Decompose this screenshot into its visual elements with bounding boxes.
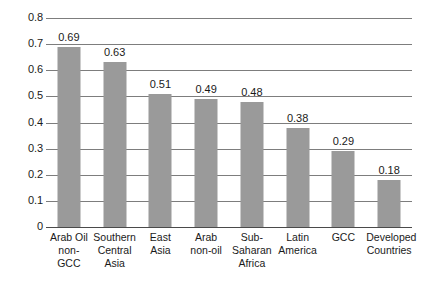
bar-value-label: 0.18 bbox=[378, 165, 399, 176]
bar bbox=[103, 62, 126, 227]
x-axis-category-label-line: East bbox=[138, 231, 184, 244]
bar-group: 0.69 bbox=[46, 18, 92, 227]
x-axis-category-label-line: Saharan bbox=[229, 244, 275, 257]
bar bbox=[378, 180, 401, 227]
bar bbox=[195, 99, 218, 227]
x-axis-category-label-line: Southern bbox=[92, 231, 138, 244]
bar-group: 0.48 bbox=[229, 18, 275, 227]
y-axis-tick-label: 0 bbox=[3, 221, 43, 232]
y-axis-tick-label: 0.7 bbox=[3, 38, 43, 49]
bar-value-label: 0.69 bbox=[58, 32, 79, 43]
bar bbox=[57, 47, 80, 227]
x-axis: Arab Oilnon-GCCSouthernCentralAsiaEastAs… bbox=[46, 231, 412, 287]
bar-group: 0.51 bbox=[138, 18, 184, 227]
y-axis-tick-label: 0.6 bbox=[3, 64, 43, 75]
bar-group: 0.18 bbox=[366, 18, 412, 227]
y-axis-tick-label: 0.3 bbox=[3, 143, 43, 154]
axis-baseline bbox=[46, 227, 412, 228]
bar bbox=[240, 102, 263, 227]
bar-value-label: 0.38 bbox=[287, 113, 308, 124]
x-axis-category-label: EastAsia bbox=[138, 231, 184, 257]
x-axis-category-label-line: Sub- bbox=[229, 231, 275, 244]
x-axis-category-label-line: Asia bbox=[138, 244, 184, 257]
x-axis-category-label-line: Arab bbox=[183, 231, 229, 244]
x-axis-category-label-line: non-oil bbox=[183, 244, 229, 257]
x-axis-category-label-line: Arab Oil bbox=[46, 231, 92, 244]
x-axis-category-label: DevelopedCountries bbox=[366, 231, 412, 257]
y-axis-tick-label: 0.5 bbox=[3, 90, 43, 101]
y-axis: 0.80.70.60.50.40.30.20.10 bbox=[0, 18, 43, 227]
x-axis-category-label-line: Developed bbox=[366, 231, 412, 244]
x-axis-category-label-line: America bbox=[275, 244, 321, 257]
bar-group: 0.29 bbox=[321, 18, 367, 227]
bar-group: 0.49 bbox=[183, 18, 229, 227]
y-axis-tick-label: 0.8 bbox=[3, 12, 43, 23]
x-axis-category-label: SouthernCentralAsia bbox=[92, 231, 138, 270]
bar-value-label: 0.29 bbox=[333, 136, 354, 147]
x-axis-category-label-line: Asia bbox=[92, 257, 138, 270]
x-axis-category-label-line: Africa bbox=[229, 257, 275, 270]
bar-chart: 0.80.70.60.50.40.30.20.10 0.690.630.510.… bbox=[0, 0, 426, 287]
x-axis-category-label: GCC bbox=[321, 231, 367, 244]
x-axis-category-label: Arab Oilnon-GCC bbox=[46, 231, 92, 270]
bar bbox=[149, 94, 172, 227]
bar-group: 0.38 bbox=[275, 18, 321, 227]
x-axis-category-label-line: Central bbox=[92, 244, 138, 257]
x-axis-category-label-line: GCC bbox=[46, 257, 92, 270]
bar bbox=[332, 151, 355, 227]
x-axis-category-label-line: Countries bbox=[366, 244, 412, 257]
plot-area: 0.690.630.510.490.480.380.290.18 bbox=[46, 18, 412, 227]
bar-group: 0.63 bbox=[92, 18, 138, 227]
x-axis-category-label-line: Latin bbox=[275, 231, 321, 244]
bar-value-label: 0.49 bbox=[195, 84, 216, 95]
x-axis-category-label: Sub-SaharanAfrica bbox=[229, 231, 275, 270]
x-axis-category-label-line: GCC bbox=[321, 231, 367, 244]
bar-value-label: 0.48 bbox=[241, 87, 262, 98]
bar-value-label: 0.63 bbox=[104, 47, 125, 58]
x-axis-category-label: LatinAmerica bbox=[275, 231, 321, 257]
y-axis-tick-label: 0.1 bbox=[3, 195, 43, 206]
x-axis-category-label: Arabnon-oil bbox=[183, 231, 229, 257]
bar bbox=[286, 128, 309, 227]
bar-value-label: 0.51 bbox=[150, 79, 171, 90]
x-axis-category-label-line: non- bbox=[46, 244, 92, 257]
y-axis-tick-label: 0.4 bbox=[3, 117, 43, 128]
y-axis-tick-label: 0.2 bbox=[3, 169, 43, 180]
